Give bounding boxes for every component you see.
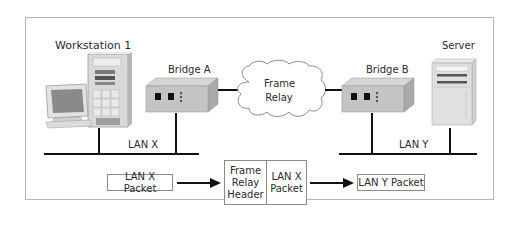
bridge-a-label: Bridge A	[168, 64, 211, 76]
lan-y-packet-box: LAN Y Packet	[357, 174, 425, 191]
payload-line2: Packet	[270, 183, 303, 195]
server-tower-icon	[432, 59, 478, 129]
bridge-device-icon	[342, 78, 416, 114]
link-bridge-b-lan-y	[371, 113, 373, 154]
payload-line1: LAN X	[271, 171, 301, 183]
bridge-device-icon	[146, 78, 220, 114]
lan-x-packet-box: LAN X Packet	[107, 174, 173, 191]
header-line2: Relay	[232, 177, 259, 189]
lan-x-segment	[44, 153, 199, 155]
encapsulated-frame-box: Frame Relay Header LAN X Packet	[224, 160, 307, 205]
lan-x-label: LAN X	[128, 139, 158, 151]
server-label: Server	[442, 40, 475, 52]
header-line3: Header	[227, 189, 263, 201]
link-bridge-a-lan-x	[175, 113, 177, 154]
desktop-computer-icon	[44, 52, 134, 132]
lan-y-label: LAN Y	[399, 139, 428, 151]
header-line1: Frame	[230, 165, 261, 177]
workstation-label: Workstation 1	[55, 40, 131, 52]
frame-relay-header-cell: Frame Relay Header	[225, 161, 267, 204]
arrow-right-icon	[310, 177, 354, 189]
link-server-lan-y	[449, 128, 451, 154]
cloud-label-line1: Frame	[264, 78, 294, 90]
lan-y-segment	[339, 153, 477, 155]
lan-x-payload-cell: LAN X Packet	[267, 161, 306, 204]
bridge-b-label: Bridge B	[366, 64, 409, 76]
link-workstation-lan-x	[98, 128, 100, 154]
cloud-label-line2: Relay	[264, 92, 294, 104]
arrow-right-icon	[177, 177, 221, 189]
